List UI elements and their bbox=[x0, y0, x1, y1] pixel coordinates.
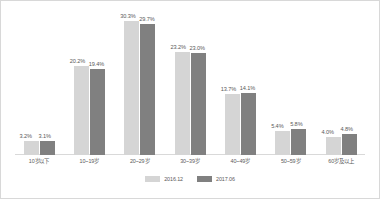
x-axis-tick-label: 10岁以下 bbox=[15, 157, 63, 165]
bar-group: 23.2%23.0% bbox=[166, 9, 214, 155]
bar-pair: 30.3%29.7% bbox=[116, 9, 164, 155]
plot-area: 3.2%3.1%20.2%19.4%30.3%29.7%23.2%23.0%13… bbox=[15, 9, 365, 155]
legend-swatch-icon bbox=[197, 176, 212, 182]
bar-2016-12[interactable]: 30.3% bbox=[124, 21, 139, 155]
bar-value-label: 4.0% bbox=[322, 129, 334, 135]
legend-item[interactable]: 2016.12 bbox=[145, 176, 183, 182]
bar-value-label: 23.2% bbox=[171, 44, 186, 50]
bar-2017-06[interactable]: 29.7% bbox=[140, 24, 155, 155]
bar-2016-12[interactable]: 13.7% bbox=[225, 94, 240, 155]
x-axis-tick-label: 10~19岁 bbox=[65, 157, 113, 165]
bar-group: 5.4%5.8% bbox=[267, 9, 315, 155]
bar-2016-12[interactable]: 3.2% bbox=[24, 141, 39, 155]
bar-group: 30.3%29.7% bbox=[116, 9, 164, 155]
bar-pair: 5.4%5.8% bbox=[267, 9, 315, 155]
bar-2017-06[interactable]: 4.8% bbox=[342, 134, 357, 155]
x-axis-tick-label: 40~49岁 bbox=[216, 157, 264, 165]
legend-item[interactable]: 2017.06 bbox=[197, 176, 235, 182]
x-axis-labels: 10岁以下10~19岁20~29岁30~39岁40~49岁50~59岁60岁及以… bbox=[15, 157, 365, 169]
legend-swatch-icon bbox=[145, 176, 160, 182]
bar-pair: 23.2%23.0% bbox=[166, 9, 214, 155]
bar-pair: 13.7%14.1% bbox=[216, 9, 264, 155]
chart-legend: 2016.122017.06 bbox=[1, 176, 379, 182]
bar-value-label: 29.7% bbox=[139, 15, 154, 21]
legend-label: 2017.06 bbox=[216, 176, 235, 182]
bar-2016-12[interactable]: 4.0% bbox=[326, 137, 341, 155]
bar-value-label: 30.3% bbox=[120, 12, 135, 18]
bar-value-label: 14.1% bbox=[240, 84, 255, 90]
bar-2016-12[interactable]: 23.2% bbox=[175, 52, 190, 155]
bar-chart-container: 3.2%3.1%20.2%19.4%30.3%29.7%23.2%23.0%13… bbox=[0, 0, 380, 199]
bar-value-label: 3.2% bbox=[20, 132, 32, 138]
legend-label: 2016.12 bbox=[164, 176, 183, 182]
bar-value-label: 3.1% bbox=[39, 133, 51, 139]
bar-value-label: 23.0% bbox=[190, 45, 205, 51]
bar-pair: 20.2%19.4% bbox=[65, 9, 113, 155]
bar-pair: 4.0%4.8% bbox=[317, 9, 365, 155]
bar-value-label: 5.4% bbox=[271, 123, 283, 129]
bar-group: 13.7%14.1% bbox=[216, 9, 264, 155]
bar-group: 3.2%3.1% bbox=[15, 9, 63, 155]
bar-2016-12[interactable]: 5.4% bbox=[275, 131, 290, 155]
bar-2016-12[interactable]: 20.2% bbox=[74, 66, 89, 155]
bar-2017-06[interactable]: 19.4% bbox=[90, 69, 105, 155]
bar-2017-06[interactable]: 23.0% bbox=[191, 53, 206, 155]
bar-group: 4.0%4.8% bbox=[317, 9, 365, 155]
x-axis-tick-label: 50~59岁 bbox=[267, 157, 315, 165]
bar-value-label: 4.8% bbox=[341, 125, 353, 131]
bar-value-label: 13.7% bbox=[221, 86, 236, 92]
bar-2017-06[interactable]: 3.1% bbox=[40, 141, 55, 155]
bar-2017-06[interactable]: 5.8% bbox=[291, 129, 306, 155]
x-axis-tick-label: 20~29岁 bbox=[116, 157, 164, 165]
bar-group: 20.2%19.4% bbox=[65, 9, 113, 155]
bar-2017-06[interactable]: 14.1% bbox=[241, 93, 256, 155]
x-axis-tick-label: 60岁及以上 bbox=[317, 157, 365, 165]
bar-value-label: 19.4% bbox=[89, 61, 104, 67]
x-axis-tick-label: 30~39岁 bbox=[166, 157, 214, 165]
bar-pair: 3.2%3.1% bbox=[15, 9, 63, 155]
bar-value-label: 20.2% bbox=[70, 57, 85, 63]
bar-value-label: 5.8% bbox=[290, 121, 302, 127]
